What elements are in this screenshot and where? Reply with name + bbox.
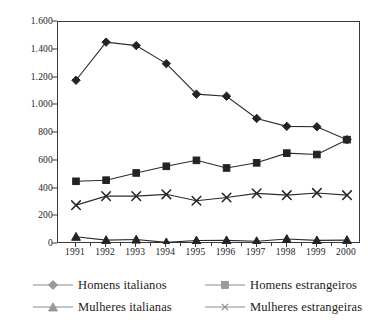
y-tick-label: 1.200	[31, 72, 53, 82]
x-tick-mark	[195, 243, 196, 247]
x-tick-mark	[105, 243, 106, 247]
data-point-marker	[283, 122, 291, 130]
y-tick-label: 1.400	[31, 44, 53, 54]
legend-item-homens-italianos[interactable]: Homens italianos	[33, 278, 167, 292]
y-tick-label: 600	[38, 155, 53, 165]
data-point-marker	[314, 151, 321, 158]
x-tick-mark	[165, 243, 166, 247]
data-point-marker	[103, 177, 110, 184]
x-minor-tick-mark	[150, 243, 151, 246]
x-minor-tick-mark	[120, 243, 121, 246]
legend-label: Homens estrangeiros	[250, 278, 357, 292]
square-icon	[205, 279, 245, 291]
data-point-marker	[73, 178, 80, 185]
x-tick-label: 1995	[186, 247, 206, 258]
y-tick-label: 800	[38, 127, 53, 137]
data-point-marker	[282, 235, 291, 243]
x-tick-mark	[75, 243, 76, 247]
series-line	[76, 237, 347, 243]
x-minor-tick-mark	[241, 243, 242, 246]
x-tick-label: 1999	[306, 247, 326, 258]
y-tick-label: 1.600	[31, 16, 53, 26]
legend-item-mulheres-estrangeiras[interactable]: Mulheres estrangeiras	[205, 300, 362, 314]
data-point-marker	[72, 201, 81, 210]
x-minor-tick-mark	[271, 243, 272, 246]
x-tick-mark	[286, 243, 287, 247]
data-point-marker	[133, 170, 140, 177]
x-tick-label: 1996	[216, 247, 236, 258]
x-tick-label: 1994	[155, 247, 175, 258]
legend-label: Homens italianos	[78, 278, 167, 292]
data-point-marker	[313, 123, 321, 131]
y-tick-label: 1.000	[31, 99, 53, 109]
series-triangle	[72, 232, 352, 244]
data-point-marker	[193, 157, 200, 164]
x-tick-label: 1993	[125, 247, 145, 258]
diamond-icon	[33, 279, 73, 291]
line-chart-figure: 02004006008001.0001.2001.4001.600 199119…	[0, 0, 378, 336]
legend-label: Mulheres italianas	[78, 300, 172, 314]
data-point-marker	[222, 92, 230, 100]
x-tick-mark	[346, 243, 347, 247]
data-point-marker	[344, 136, 351, 143]
x-tick-mark	[256, 243, 257, 247]
data-point-marker	[223, 165, 230, 172]
x-tick-mark	[316, 243, 317, 247]
data-point-marker	[132, 41, 140, 49]
series-line	[76, 140, 347, 182]
x-tick-label: 2000	[336, 247, 356, 258]
x-tick-mark	[226, 243, 227, 247]
series-line	[76, 42, 347, 140]
series-square	[73, 136, 351, 184]
data-point-marker	[283, 150, 290, 157]
data-point-marker	[253, 160, 260, 167]
legend-item-mulheres-italianas[interactable]: Mulheres italianas	[33, 300, 172, 314]
chart-plot-svg	[58, 22, 361, 244]
data-point-marker	[252, 237, 261, 244]
x-minor-tick-mark	[211, 243, 212, 246]
data-point-marker	[252, 114, 260, 122]
x-tick-label: 1991	[65, 247, 85, 258]
triangle-icon	[33, 301, 73, 313]
data-point-marker	[72, 232, 81, 240]
series-cross	[72, 189, 352, 210]
x-minor-tick-mark	[331, 243, 332, 246]
x-minor-tick-mark	[301, 243, 302, 246]
legend-label: Mulheres estrangeiras	[250, 300, 362, 314]
data-point-marker	[162, 238, 171, 244]
x-tick-label: 1998	[276, 247, 296, 258]
legend-item-homens-estrangeiros[interactable]: Homens estrangeiros	[205, 278, 357, 292]
y-tick-label: 400	[38, 183, 53, 193]
x-minor-tick-mark	[90, 243, 91, 246]
series-diamond	[72, 38, 351, 144]
cross-icon	[205, 301, 245, 313]
y-tick-label: 200	[38, 210, 53, 220]
data-point-marker	[163, 163, 170, 170]
x-tick-mark	[135, 243, 136, 247]
x-minor-tick-mark	[180, 243, 181, 246]
x-tick-label: 1992	[95, 247, 115, 258]
plot-area	[57, 21, 360, 243]
series-line	[76, 193, 347, 205]
chart-legend: Homens italianos Homens estrangeiros Mul…	[0, 276, 378, 328]
x-axis: 1991199219931994199519961997199819992000	[0, 247, 378, 263]
x-tick-label: 1997	[246, 247, 266, 258]
